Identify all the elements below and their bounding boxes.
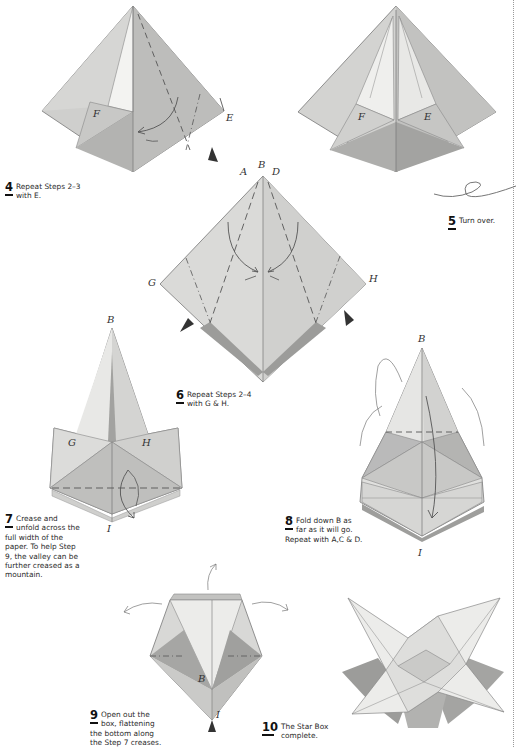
step-4-caption: 4 Repeat Steps 2–3 with E. (5, 182, 115, 201)
label-h: H (368, 273, 378, 284)
step-9-caption: 9 Open out the box, flattening the botto… (90, 710, 200, 747)
label-g: G (68, 437, 76, 448)
step-text-line: 9, the valley can be (5, 552, 78, 561)
step-text-line: far as it will go. (296, 525, 353, 534)
step-number: 8 (285, 516, 293, 530)
label-i: I (215, 709, 221, 720)
step-text-line: with E. (16, 191, 41, 200)
step-text-line: Repeat Steps 2–3 (16, 182, 81, 191)
label-b: B (257, 160, 265, 170)
step-number: 10 (262, 722, 278, 736)
label-e: E (225, 112, 234, 123)
label-f: F (92, 108, 101, 119)
step-text-line: complete. (281, 731, 318, 740)
instruction-page: F E 4 Repeat Steps 2–3 with E. F E (0, 0, 520, 747)
label-i: I (417, 547, 423, 558)
label-b: B (197, 673, 205, 684)
step-text-line: paper. To help Step (5, 542, 76, 551)
step-10-caption: 10 The Star Box complete. (262, 722, 362, 741)
step-text-line: Repeat with A,C & D. (285, 535, 362, 544)
step-7-caption: 7 Crease and unfold across the full widt… (5, 514, 105, 580)
step-5-diagram: F E (296, 2, 500, 172)
step-text-line: the Step 7 creases. (90, 738, 161, 747)
step-text-line: mountain. (5, 570, 43, 579)
step-7-diagram: B G H I (40, 312, 200, 532)
label-b: B (417, 333, 425, 344)
step-number: 4 (5, 182, 13, 196)
turn-over-icon (432, 178, 518, 204)
step-text-line: Open out the (101, 710, 150, 719)
step-text-line: The Star Box (281, 722, 328, 731)
step-text-line: further creased as a (5, 561, 80, 570)
step-4-diagram: F E (38, 2, 248, 172)
dotted-margin-rule (513, 0, 514, 747)
step-10-diagram (338, 588, 508, 728)
label-i: I (106, 523, 112, 532)
step-number: 9 (90, 710, 98, 724)
step-text-line: Crease and (16, 514, 58, 523)
label-a: A (239, 166, 247, 177)
step-text-line: Turn over. (459, 216, 495, 225)
step-5-caption: 5 Turn over. (448, 216, 518, 230)
step-text-line: box, flattening (101, 719, 155, 728)
label-g: G (148, 277, 156, 288)
label-e: E (423, 111, 432, 122)
step-text-line: full width of the (5, 533, 63, 542)
step-text-line: the bottom along (90, 729, 154, 738)
label-f: F (357, 111, 366, 122)
label-d: D (271, 166, 280, 177)
step-number: 7 (5, 514, 13, 528)
step-8-caption: 8 Fold down B as far as it will go. Repe… (285, 516, 385, 544)
label-h: H (141, 437, 151, 448)
step-text-line: Fold down B as (296, 516, 352, 525)
step-text-line: unfold across the (16, 523, 80, 532)
step-number: 5 (448, 216, 456, 230)
label-b: B (106, 314, 114, 325)
